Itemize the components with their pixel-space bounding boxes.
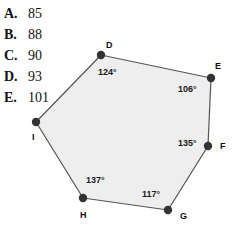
vertex-dot-g <box>164 206 172 214</box>
vertex-dot-h <box>79 194 87 202</box>
vertex-dot-i <box>32 118 40 126</box>
vertex-label-f: F <box>220 142 226 151</box>
vertex-dot-f <box>204 142 212 150</box>
angle-label-f: 135° <box>178 139 197 148</box>
angle-label-h: 137° <box>86 176 105 185</box>
vertex-label-g: G <box>180 212 187 221</box>
vertex-dot-e <box>207 74 215 82</box>
angle-label-e: 106° <box>178 85 197 94</box>
hexagon-shape <box>36 55 211 210</box>
vertex-label-i: I <box>32 133 35 142</box>
vertex-dot-d <box>97 51 105 59</box>
vertex-label-h: H <box>80 211 87 220</box>
angle-label-g: 117° <box>142 190 160 199</box>
vertex-label-d: D <box>106 41 113 50</box>
hexagon-diagram <box>0 0 236 225</box>
angle-label-d: 124° <box>98 68 117 77</box>
vertex-label-e: E <box>215 62 221 71</box>
geometry-question-figure: A. 85 B. 88 C. 90 D. 93 E. 101 DEFGHI124… <box>0 0 236 225</box>
